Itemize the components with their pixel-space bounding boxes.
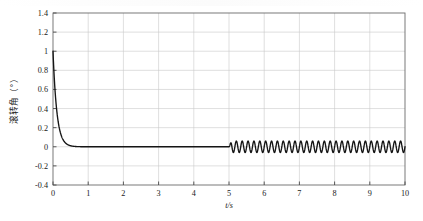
x-tick-label: 3: [157, 189, 161, 198]
x-axis-title: t/s: [225, 201, 233, 210]
chart-figure: 1.41.210.80.60.40.20-0.2-0.4 01234567891…: [0, 0, 423, 221]
x-tick-label: 9: [368, 189, 372, 198]
chart-svg: 1.41.210.80.60.40.20-0.2-0.4 01234567891…: [0, 0, 423, 221]
x-tick-label: 1: [86, 189, 90, 198]
y-tick-label: 0.6: [38, 85, 48, 94]
y-axis-tick-labels: 1.41.210.80.60.40.20-0.2-0.4: [35, 9, 48, 190]
x-tick-label: 5: [227, 189, 231, 198]
y-tick-label: 1.2: [38, 28, 48, 37]
y-tick-label: 0: [44, 143, 48, 152]
y-tick-label: 1: [44, 47, 48, 56]
x-axis-tick-labels: 012345678910: [51, 189, 409, 198]
y-tick-label: 1.4: [38, 9, 48, 18]
x-tick-label: 4: [192, 189, 196, 198]
x-tick-label: 6: [262, 189, 266, 198]
x-tick-label: 7: [297, 189, 301, 198]
y-tick-label: 0.2: [38, 124, 48, 133]
y-tick-label: -0.4: [35, 181, 48, 190]
y-axis-title: 滚转角（°）: [8, 74, 19, 123]
x-tick-label: 2: [121, 189, 125, 198]
y-tick-label: -0.2: [35, 162, 48, 171]
x-tick-label: 0: [51, 189, 55, 198]
y-tick-label: 0.4: [38, 105, 48, 114]
y-tick-label: 0.8: [38, 66, 48, 75]
x-tick-label: 8: [333, 189, 337, 198]
x-tick-label: 10: [401, 189, 409, 198]
